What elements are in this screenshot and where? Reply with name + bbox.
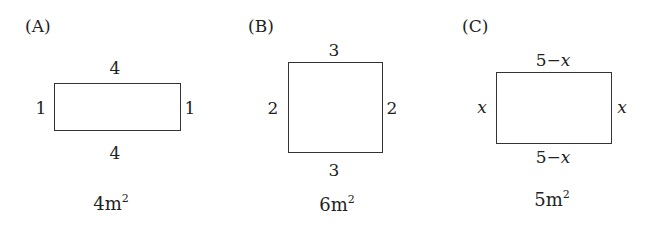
rectangle-b <box>288 62 383 153</box>
rectangle-c <box>496 72 612 144</box>
area-exponent-b: 2 <box>348 193 355 206</box>
area-exponent-a: 2 <box>122 192 129 205</box>
right-side-length-a: 1 <box>185 100 196 117</box>
top-side-length-c: 5−x <box>536 52 571 69</box>
area-value-a: 4m <box>93 193 122 214</box>
left-side-length-b: 2 <box>268 100 279 117</box>
option-label-a: (A) <box>25 18 51 35</box>
area-value-c: 5m <box>534 189 563 210</box>
top-number-c: 5 <box>536 50 547 70</box>
bottom-side-length-c: 5−x <box>536 149 571 166</box>
top-variable-c: x <box>561 50 571 70</box>
area-b: 6m2 <box>319 196 355 214</box>
right-side-length-c: x <box>617 99 627 116</box>
bottom-side-length-a: 4 <box>110 145 121 162</box>
option-label-c: (C) <box>462 18 488 35</box>
bottom-number-c: 5 <box>536 147 547 167</box>
bottom-variable-c: x <box>561 147 571 167</box>
top-side-length-b: 3 <box>329 42 340 59</box>
left-side-length-c: x <box>477 99 487 116</box>
bottom-minus-c: − <box>546 147 560 167</box>
area-c: 5m2 <box>534 191 570 209</box>
bottom-side-length-b: 3 <box>329 162 340 179</box>
top-side-length-a: 4 <box>110 60 121 77</box>
right-side-length-b: 2 <box>387 100 398 117</box>
rectangle-a <box>54 83 181 131</box>
area-exponent-c: 2 <box>563 188 570 201</box>
area-value-b: 6m <box>319 194 348 215</box>
option-label-b: (B) <box>248 18 274 35</box>
top-minus-c: − <box>546 50 560 70</box>
left-side-length-a: 1 <box>36 100 47 117</box>
area-a: 4m2 <box>93 195 129 213</box>
